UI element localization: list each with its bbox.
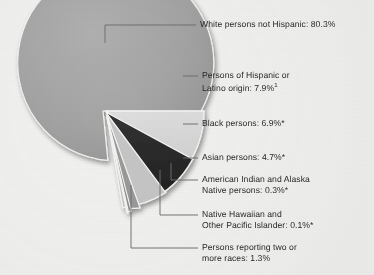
callout-two-or-more-races: Persons reporting two or more races: 1.3… (202, 242, 297, 263)
callout-two-or-more-races-line1: Persons reporting two or (202, 242, 297, 252)
callout-native-hawaiian-line2: Other Pacific Islander: 0.1%* (202, 220, 313, 231)
callout-native-hawaiian-line1: Native Hawaiian and (202, 209, 282, 219)
pie-chart-graphic (0, 0, 374, 275)
callout-hispanic-footnote: 1 (274, 83, 277, 89)
callout-hispanic-latino-line1: Persons of Hispanic or (202, 70, 290, 80)
pie-slices (18, 0, 214, 218)
callout-american-indian-alaska-native: American Indian and Alaska Native person… (202, 174, 310, 195)
callout-white-not-hispanic: White persons not Hispanic: 80.3% (200, 19, 335, 30)
callout-hispanic-latino: Persons of Hispanic or Latino origin: 7.… (202, 70, 290, 93)
callout-white-not-hispanic-line1: White persons not Hispanic: 80.3% (200, 19, 335, 29)
callout-american-indian-line2: Native persons: 0.3%* (202, 185, 310, 196)
callout-two-or-more-races-line2: more races: 1.3% (202, 253, 297, 264)
callout-black-persons: Black persons: 6.9%* (202, 118, 285, 129)
chart-canvas: White persons not Hispanic: 80.3% Person… (0, 0, 374, 275)
callout-asian-persons-line1: Asian persons: 4.7%* (202, 152, 285, 162)
callout-black-persons-line1: Black persons: 6.9%* (202, 118, 285, 128)
callout-asian-persons: Asian persons: 4.7%* (202, 152, 285, 163)
callout-native-hawaiian-pacific-islander: Native Hawaiian and Other Pacific Island… (202, 209, 313, 230)
callout-hispanic-latino-line2: Latino origin: 7.9%1 (202, 81, 290, 93)
callout-american-indian-line1: American Indian and Alaska (202, 174, 310, 184)
